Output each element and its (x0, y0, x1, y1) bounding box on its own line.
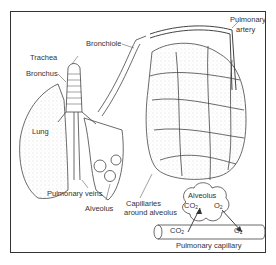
label-bronchiole: Bronchiole (86, 40, 121, 48)
label-alveolus-left: Alveolus (85, 205, 113, 213)
label-bronchus: Bronchus (26, 70, 58, 78)
label-o2-alveolus: O2 (214, 202, 223, 210)
label-capillaries-2: around alveolus (124, 209, 177, 217)
label-trachea: Trachea (30, 54, 57, 62)
label-pulmonary-artery-2: artery (236, 26, 255, 34)
label-alveolus-bottom: Alveolus (188, 192, 216, 200)
label-co2-alveolus: CO2 (184, 202, 198, 210)
label-co2-capillary: CO2 (170, 227, 184, 235)
label-pulmonary-veins: Pulmonary veins (47, 190, 102, 198)
label-lung: Lung (32, 128, 49, 136)
label-o2-capillary: O2 (234, 227, 243, 235)
label-capillaries-1: Capillaries (126, 200, 161, 208)
trachea (66, 64, 82, 113)
lung-shape (20, 84, 68, 199)
label-pulmonary-artery-1: Pulmonary (230, 16, 266, 24)
label-pulmonary-capillary: Pulmonary capillary (176, 242, 241, 250)
